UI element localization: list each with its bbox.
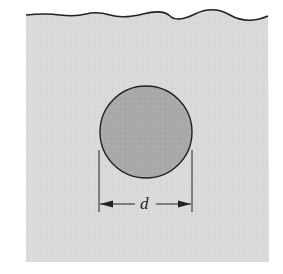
diameter-label: d [140,195,149,212]
diagram-canvas [0,0,283,274]
circular-object [100,86,192,178]
